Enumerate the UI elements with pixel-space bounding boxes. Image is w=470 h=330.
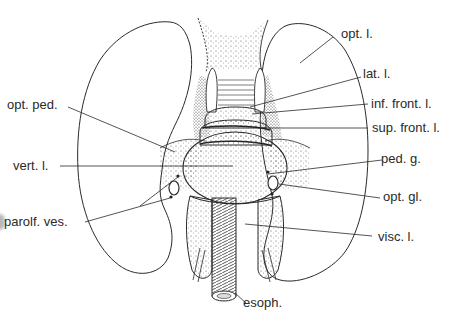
- left-stalk: [206, 68, 217, 112]
- neck-region: [198, 18, 268, 70]
- right-parolfactory-vesicle-1: [266, 170, 269, 173]
- label-optic-lobe: opt. l.: [341, 27, 373, 41]
- visceral-lobe-right: [258, 196, 284, 278]
- label-lateral-lobe: lat. l.: [363, 67, 390, 81]
- label-superior-frontal-lobe: sup. front. l.: [372, 121, 440, 135]
- esophagus: [212, 198, 236, 296]
- label-optic-gland: opt. gl.: [383, 190, 422, 204]
- label-vertical-lobe: vert. l.: [13, 159, 48, 173]
- label-visceral-lobe: visc. l.: [378, 230, 414, 244]
- label-pedal-ganglion: ped. g.: [381, 152, 421, 166]
- anatomy-diagram: opt. l. lat. l. inf. front. l. sup. fron…: [0, 0, 470, 330]
- label-esophagus: esoph.: [243, 296, 282, 310]
- visceral-lobe-left: [186, 196, 212, 278]
- right-parolfactory-vesicle-2: [270, 192, 273, 195]
- label-inferior-frontal-lobe: inf. front. l.: [371, 97, 432, 111]
- label-optic-peduncle: opt. ped.: [7, 98, 58, 112]
- right-optic-gland: [268, 176, 278, 190]
- label-parolfactory-vesicles: parolf. ves.: [4, 215, 68, 229]
